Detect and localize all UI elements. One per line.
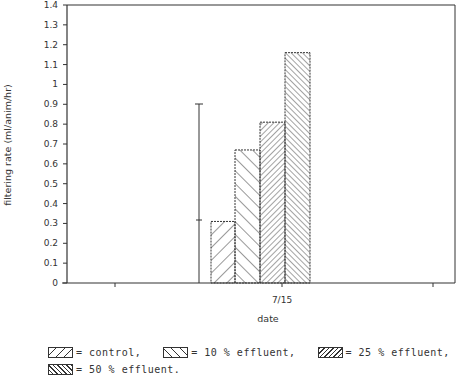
control-swatch (48, 347, 73, 358)
bar-group-7-15 (211, 53, 310, 283)
legend: = control, = 10 % effluent, = 25 % efflu… (48, 344, 458, 378)
y-tick-label: 0.4 (44, 199, 59, 209)
10-effluent-swatch (163, 347, 188, 358)
bar-50-effluent (285, 53, 310, 283)
legend-label: = control, (76, 347, 141, 358)
x-tick-label: 7/15 (272, 295, 292, 305)
y-axis-ticks: 00.10.20.30.40.50.60.70.80.911.11.21.31.… (44, 0, 67, 288)
legend-item-50-effluent: = 50 % effluent. (48, 364, 180, 375)
y-tick-label: 0.9 (44, 99, 59, 109)
y-tick-label: 0.6 (44, 159, 59, 169)
y-tick-label: 1.1 (44, 60, 58, 70)
25-effluent-swatch (318, 347, 343, 358)
y-axis-title: filtering rate (ml/anim/hr) (2, 84, 13, 206)
legend-label: = 10 % effluent, (191, 347, 295, 358)
y-tick-label: 1.3 (44, 20, 58, 30)
50-effluent-swatch (48, 364, 73, 375)
y-tick-label: 1 (52, 79, 58, 89)
bar-control (211, 221, 235, 283)
y-tick-label: 0.5 (44, 179, 58, 189)
legend-item-10-effluent: = 10 % effluent, (163, 347, 295, 358)
y-tick-label: 0.1 (44, 258, 58, 268)
y-tick-label: 0.2 (44, 238, 58, 248)
bar-chart: 00.10.20.30.40.50.60.70.80.911.11.21.31.… (0, 0, 458, 340)
legend-item-control: = control, (48, 347, 141, 358)
legend-item-25-effluent: = 25 % effluent, (318, 347, 450, 358)
x-axis-title: date (257, 313, 279, 324)
legend-label: = 50 % effluent. (76, 364, 180, 375)
y-tick-label: 0.7 (44, 139, 58, 149)
y-tick-label: 1.2 (44, 40, 58, 50)
bar-10-effluent (235, 150, 260, 283)
y-tick-label: 0.8 (44, 119, 59, 129)
y-tick-label: 0 (52, 278, 58, 288)
bar-25-effluent (260, 122, 285, 283)
error-bar (195, 104, 203, 283)
y-tick-label: 1.4 (44, 0, 59, 10)
legend-label: = 25 % effluent, (346, 347, 450, 358)
y-tick-label: 0.3 (44, 218, 58, 228)
